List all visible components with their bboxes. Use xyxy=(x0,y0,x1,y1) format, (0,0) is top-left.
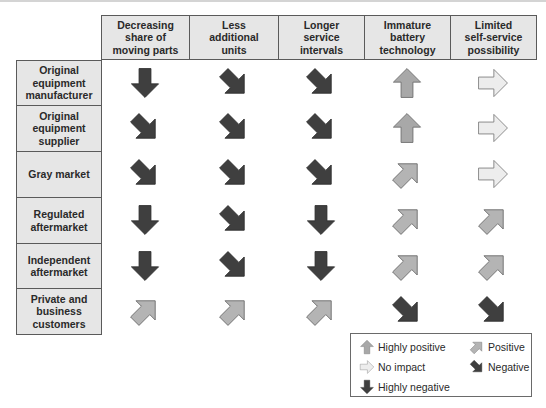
legend-item-highly-negative: Highly negative xyxy=(359,379,450,395)
column-header: Lessadditionalunits xyxy=(189,15,279,60)
legend-label: Highly negative xyxy=(378,381,450,393)
row-header-text: equipment xyxy=(32,77,85,90)
row-header: Originalequipmentmanufacturer xyxy=(16,60,102,106)
arrow-right-icon xyxy=(476,66,510,100)
arrow-up-right-icon xyxy=(128,294,162,328)
impact-cell xyxy=(364,151,450,197)
column-header-text: battery xyxy=(390,31,425,44)
column-header-text: additional xyxy=(209,31,259,44)
row-header: Independentaftermarket xyxy=(16,243,102,289)
row-header-text: equipment xyxy=(32,122,85,135)
column-header-text: share of xyxy=(125,31,166,44)
column-header-text: Longer xyxy=(304,19,340,32)
arrow-down-right-icon xyxy=(476,294,510,328)
column-header: Longerserviceintervals xyxy=(278,15,365,60)
arrow-down-right-icon xyxy=(304,111,338,145)
arrow-down-right-icon xyxy=(217,111,251,145)
column-header-text: Less xyxy=(222,19,246,32)
column-header-text: units xyxy=(221,44,246,57)
row-header-text: aftermarket xyxy=(30,221,87,234)
row-header: Originalequipmentsupplier xyxy=(16,105,102,152)
arrow-down-right-icon xyxy=(217,249,251,283)
impact-cell xyxy=(278,60,364,105)
arrow-down-right-icon xyxy=(217,157,251,191)
column-header: Limitedself-servicepossibility xyxy=(450,15,537,60)
impact-cell xyxy=(450,60,536,105)
arrow-down-right-icon xyxy=(217,66,251,100)
impact-cell xyxy=(189,197,278,243)
legend-label: Positive xyxy=(488,341,525,353)
impact-cell xyxy=(364,60,450,105)
arrow-down-right-icon xyxy=(128,111,162,145)
impact-cell xyxy=(101,151,189,197)
row-header-text: manufacturer xyxy=(25,89,92,102)
legend-item-highly-positive: Highly positive xyxy=(359,339,446,355)
arrow-right-icon xyxy=(359,359,378,375)
column-header-text: Decreasing xyxy=(117,19,174,32)
arrow-down-icon xyxy=(128,249,162,283)
row-header: Private andbusinesscustomers xyxy=(16,288,102,335)
impact-cell xyxy=(101,105,189,151)
arrow-down-icon xyxy=(359,379,378,395)
column-header-text: possibility xyxy=(468,44,520,57)
column-header-text: self-service xyxy=(465,31,523,44)
legend-item-negative: Negative xyxy=(469,359,529,375)
arrow-down-right-icon xyxy=(304,157,338,191)
legend-item-no-impact: No impact xyxy=(359,359,425,375)
arrow-up-right-icon xyxy=(390,157,424,191)
impact-cell xyxy=(364,288,450,334)
row-header-text: Original xyxy=(39,110,79,123)
impact-cell xyxy=(189,243,278,288)
impact-cell xyxy=(189,60,278,105)
arrow-right-icon xyxy=(476,111,510,145)
arrow-down-icon xyxy=(304,203,338,237)
impact-cell xyxy=(278,105,364,151)
arrow-down-right-icon xyxy=(128,157,162,191)
row-header-text: business xyxy=(36,305,82,318)
column-header-text: moving parts xyxy=(113,44,179,57)
impact-cell xyxy=(364,105,450,151)
arrow-down-icon xyxy=(128,66,162,100)
impact-cell xyxy=(189,151,278,197)
arrow-down-right-icon xyxy=(304,66,338,100)
arrow-up-right-icon xyxy=(217,294,251,328)
arrow-right-icon xyxy=(476,157,510,191)
arrow-down-icon xyxy=(304,249,338,283)
impact-cell xyxy=(364,197,450,243)
arrow-up-icon xyxy=(390,111,424,145)
column-header: Decreasingshare ofmoving parts xyxy=(101,15,190,60)
impact-cell xyxy=(364,243,450,288)
column-header-text: intervals xyxy=(300,44,343,57)
legend-label: Highly positive xyxy=(378,341,446,353)
arrow-up-right-icon xyxy=(476,203,510,237)
impact-cell xyxy=(101,288,189,334)
row-header-text: Private and xyxy=(31,293,88,306)
arrow-down-right-icon xyxy=(469,359,488,375)
impact-cell xyxy=(278,243,364,288)
row-header-text: Independent xyxy=(28,254,90,267)
impact-cell xyxy=(278,197,364,243)
arrow-up-right-icon xyxy=(390,203,424,237)
legend-label: Negative xyxy=(488,361,529,373)
column-header: Immaturebatterytechnology xyxy=(364,15,451,60)
column-header-text: technology xyxy=(379,44,435,57)
arrow-down-icon xyxy=(128,203,162,237)
impact-cell xyxy=(450,243,536,288)
row-header: Gray market xyxy=(16,151,102,198)
row-header: Regulatedaftermarket xyxy=(16,197,102,244)
arrow-up-right-icon xyxy=(476,249,510,283)
arrow-up-icon xyxy=(390,66,424,100)
impact-cell xyxy=(278,151,364,197)
column-header-text: Limited xyxy=(475,19,512,32)
impact-cell xyxy=(450,151,536,197)
impact-cell xyxy=(450,288,536,334)
arrow-up-right-icon xyxy=(390,249,424,283)
row-header-text: Original xyxy=(39,64,79,77)
impact-cell xyxy=(101,243,189,288)
impact-cell xyxy=(101,60,189,105)
row-header-text: Gray market xyxy=(28,168,89,181)
row-header-text: Regulated xyxy=(34,208,85,221)
arrow-up-icon xyxy=(359,339,378,355)
arrow-down-right-icon xyxy=(390,294,424,328)
impact-cell xyxy=(101,197,189,243)
